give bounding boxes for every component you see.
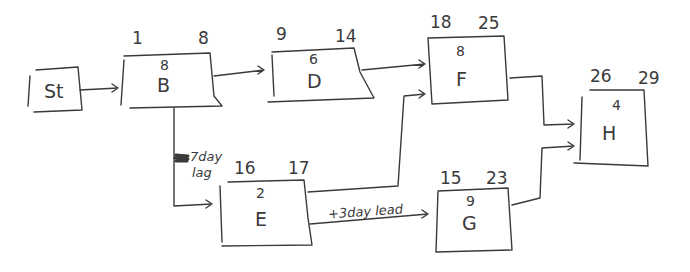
edge-g-h — [512, 142, 574, 205]
node-e-start: 16 — [234, 160, 256, 177]
node-f-end: 25 — [478, 15, 500, 32]
edge-f-h — [510, 76, 574, 128]
lag-marker-scribble — [175, 155, 188, 161]
node-g-label: G — [462, 214, 477, 233]
edge-e-f — [308, 90, 425, 192]
node-f-label: F — [456, 70, 467, 89]
node-h-end: 29 — [638, 70, 660, 87]
edge-st-b — [80, 84, 118, 92]
edge-b-d — [214, 66, 264, 76]
node-f-start: 18 — [430, 14, 452, 31]
node-d-label: D — [307, 72, 322, 91]
node-h-label: H — [602, 124, 616, 143]
node-f-box — [428, 36, 508, 104]
node-b-label: B — [157, 76, 170, 95]
node-f-duration: 8 — [456, 44, 465, 58]
node-b-duration: 8 — [160, 58, 169, 72]
node-b-start: 1 — [132, 30, 143, 47]
node-e-duration: 2 — [256, 186, 265, 200]
node-g-duration: 9 — [466, 194, 475, 208]
node-e-label: E — [255, 210, 267, 229]
node-b-box — [121, 53, 222, 108]
node-d-duration: 6 — [309, 52, 318, 66]
node-g-end: 23 — [486, 170, 508, 187]
node-b-end: 8 — [198, 30, 209, 47]
lag-annotation-line1: 7day — [190, 150, 222, 163]
node-e-end: 17 — [288, 160, 310, 177]
node-h-duration: 4 — [612, 98, 621, 112]
node-st-label: St — [44, 82, 64, 101]
node-d-start: 9 — [276, 26, 287, 43]
edge-d-f — [362, 60, 425, 70]
node-g-start: 15 — [440, 170, 462, 187]
lag-annotation-line2: lag — [192, 166, 212, 179]
node-d-end: 14 — [335, 28, 357, 45]
node-h-start: 26 — [590, 68, 612, 85]
